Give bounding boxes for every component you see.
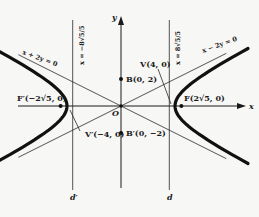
point-F-dot bbox=[179, 104, 183, 108]
v-prime-label-leader bbox=[70, 110, 80, 131]
point-V-prime-label: V′(−4, 0) bbox=[84, 129, 125, 139]
point-F-prime-label: F′(−2√5, 0) bbox=[17, 93, 67, 103]
directrix-right-eq: x = 8√5/5 bbox=[174, 30, 182, 65]
y-axis-label: y bbox=[111, 12, 118, 22]
directrix-left-eq: x = −8√5/5 bbox=[78, 25, 86, 65]
directrix-right-label: d bbox=[167, 192, 173, 202]
point-B-prime-label: B′(0, −2) bbox=[126, 128, 166, 138]
x-axis-arrow-icon bbox=[237, 103, 246, 109]
origin-label: O bbox=[112, 108, 119, 118]
point-B-dot bbox=[119, 77, 123, 81]
y-axis-arrow-icon bbox=[118, 16, 124, 25]
hyperbola-diagram: x y O x + 2y = 0 x − 2y = 0 x = −8√5/5 x… bbox=[0, 0, 259, 217]
point-F-prime-dot bbox=[59, 104, 63, 108]
point-B-label: B(0, 2) bbox=[126, 74, 157, 84]
directrix-left-label: d′ bbox=[70, 192, 79, 202]
point-V-label: V(4, 0) bbox=[139, 59, 171, 69]
x-axis-label: x bbox=[248, 101, 254, 111]
asymptote-pos-label: x − 2y = 0 bbox=[201, 35, 239, 55]
origin-dot bbox=[119, 104, 123, 108]
point-F-label: F(2√5, 0) bbox=[184, 93, 225, 103]
